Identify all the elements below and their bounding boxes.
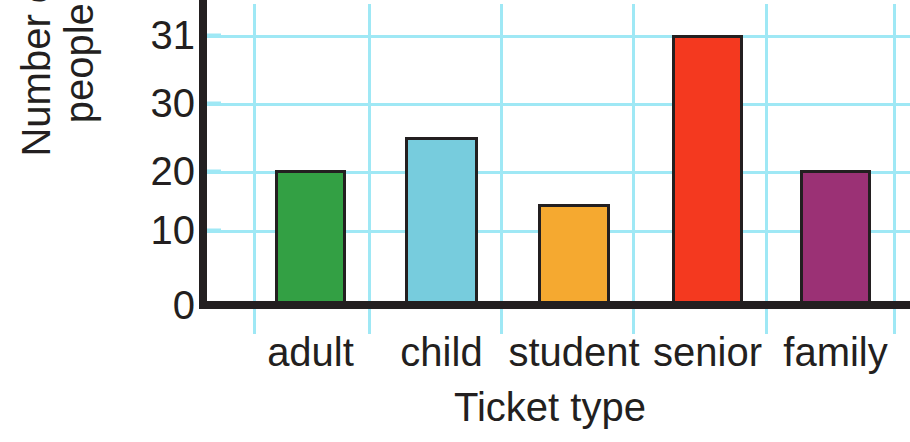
gridline — [205, 103, 910, 106]
plot-area — [205, 4, 910, 307]
y-axis-title: Number of people — [15, 0, 101, 213]
bar-senior — [672, 35, 743, 309]
y-tick-label: 20 — [115, 149, 195, 194]
vertical-gridline — [893, 4, 896, 334]
x-tick-label-child: child — [400, 330, 482, 375]
x-tick-label-student: student — [508, 330, 639, 375]
bar-family — [800, 170, 871, 309]
x-tick-label-family: family — [783, 330, 887, 375]
vertical-gridline — [632, 4, 635, 334]
bar-student — [538, 204, 610, 309]
bar-adult — [275, 170, 346, 309]
x-tick-label-senior: senior — [653, 330, 762, 375]
x-tick-label-adult: adult — [267, 330, 354, 375]
gridline — [205, 35, 910, 38]
y-tick-label: 10 — [115, 208, 195, 253]
x-axis-line — [199, 301, 910, 309]
y-tick-label: 30 — [115, 81, 195, 126]
bar-chart: Number of people 010203031 adultchildstu… — [0, 0, 910, 442]
y-axis-line — [199, 0, 207, 308]
y-tick-label: 31 — [115, 13, 195, 58]
vertical-gridline — [368, 4, 371, 334]
y-axis-tick-labels: 010203031 — [100, 0, 195, 310]
bar-child — [405, 137, 478, 309]
x-axis-title: Ticket type — [190, 385, 910, 430]
vertical-gridline — [500, 4, 503, 334]
vertical-gridline — [253, 4, 256, 334]
y-tick-label: 0 — [115, 283, 195, 328]
vertical-gridline — [765, 4, 768, 334]
